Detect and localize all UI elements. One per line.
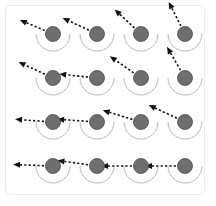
vector-line-r3c3 [109, 112, 132, 119]
glyph-disc-r3c4 [178, 115, 193, 130]
vector-arrowhead-r2c1 [19, 62, 27, 68]
glyph-disc-r3c3 [134, 115, 149, 130]
vector-line-r1c4 [172, 8, 181, 26]
glyph-disc-r2c1 [46, 71, 61, 86]
glyph-disc-r2c2 [90, 71, 105, 86]
vector-line-r3c2 [64, 120, 88, 122]
vector-arrowhead-r4c1 [13, 162, 20, 168]
glyph-disc-r4c3 [134, 159, 149, 174]
vector-arrowhead-r2c3 [110, 56, 117, 62]
vector-arrowhead-r3c1 [15, 117, 22, 123]
glyph-disc-r4c2 [90, 159, 105, 174]
vector-line-r1c3 [120, 14, 135, 28]
vector-line-r3c4 [155, 108, 177, 118]
glyph-disc-r1c4 [178, 27, 193, 42]
glyph-disc-r2c3 [134, 71, 149, 86]
vector-line-r2c2 [66, 75, 88, 77]
glyph-disc-r4c1 [46, 159, 61, 174]
glyph-grid-figure [0, 0, 216, 206]
vector-line-r4c1 [20, 165, 44, 166]
glyph-disc-r2c4 [178, 71, 193, 86]
vector-arrowhead-r1c2 [63, 18, 71, 24]
glyph-disc-r3c1 [46, 115, 61, 130]
glyph-disc-r1c3 [134, 27, 149, 42]
vector-line-r2c4 [171, 53, 181, 70]
vector-arrowhead-r1c1 [20, 20, 28, 26]
circle-layer [46, 27, 193, 174]
vector-line-r3c1 [22, 120, 44, 122]
vector-line-r2c1 [25, 65, 45, 74]
vector-arrowhead-r1c4 [169, 2, 175, 10]
vector-arrowhead-r2c4 [167, 47, 173, 55]
glyph-disc-r1c2 [90, 27, 105, 42]
vector-line-r2c3 [116, 60, 134, 73]
vector-line-r1c1 [26, 23, 44, 31]
glyph-disc-r3c2 [90, 115, 105, 130]
glyph-disc-r4c4 [178, 159, 193, 174]
vector-arrowhead-r3c3 [103, 109, 111, 115]
vector-line-r1c2 [69, 21, 89, 30]
glyph-disc-r1c1 [46, 27, 61, 42]
vector-line-r4c2 [64, 161, 88, 164]
